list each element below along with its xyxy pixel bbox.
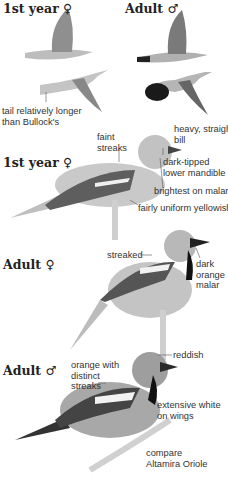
- annotation-line: lower mandible: [163, 168, 226, 179]
- annotation-line: bill: [174, 135, 228, 146]
- annotation-line: dark-tipped: [163, 157, 226, 168]
- flight-label-adult-male: Adult ♂: [125, 1, 179, 16]
- flight-bird-adult-male-upper: [137, 10, 208, 63]
- annotation-streaked: streaked: [107, 250, 143, 261]
- annotation-line: dark: [196, 259, 225, 270]
- annotation-line: heavy, straight: [174, 124, 228, 135]
- annotation-line: orange with: [71, 360, 119, 371]
- annotation-orange-streaks: orange with distinct streaks: [71, 360, 119, 392]
- label-adult-male: Adult ♂: [3, 363, 57, 378]
- annotation-faint-streaks: faint streaks: [97, 132, 127, 153]
- annotation-line: extensive white: [157, 400, 221, 411]
- annotation-mandible: dark-tipped lower mandible: [163, 157, 226, 178]
- annotation-line: than Bullock's: [2, 117, 82, 128]
- annotation-body: fairly uniform yellowish: [138, 203, 228, 214]
- annotation-tail: tail relatively longer than Bullock's: [2, 106, 82, 127]
- label-1st-year-female: 1st year ♀: [3, 155, 72, 170]
- annotation-line: Altamira Oriole: [146, 459, 207, 470]
- annotation-white-wings: extensive white on wings: [157, 400, 221, 421]
- annotation-line: distinct: [71, 371, 119, 382]
- annotation-line: orange: [196, 270, 225, 281]
- label-adult-female: Adult ♀: [3, 257, 55, 272]
- annotation-compare: compare Altamira Oriole: [146, 448, 207, 469]
- annotation-line: malar: [196, 280, 225, 291]
- annotation-line: on wings: [157, 411, 221, 422]
- flight-label-1st-year-female: 1st year ♀: [3, 1, 72, 16]
- annotation-line: tail relatively longer: [2, 106, 82, 117]
- annotation-malar: brightest on malar: [154, 186, 228, 197]
- annotation-line: streaks: [71, 381, 119, 392]
- annotation-line: faint: [97, 132, 127, 143]
- annotation-dark-orange-malar: dark orange malar: [196, 259, 225, 291]
- flight-bird-adult-male-lower: [145, 72, 212, 115]
- annotation-bill: heavy, straight bill: [174, 124, 228, 145]
- annotation-line: compare: [146, 448, 207, 459]
- annotation-line: streaks: [97, 143, 127, 154]
- annotation-reddish: reddish: [173, 350, 204, 361]
